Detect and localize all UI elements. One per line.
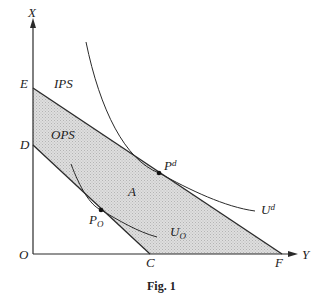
region-label-ops: OPS [51,127,75,142]
label-ud: Ud [261,202,275,217]
label-pd: Pd [163,158,177,173]
label-po: PO [88,212,104,229]
region-label-a: A [127,184,136,199]
point-po [99,208,104,213]
figure-caption: Fig. 1 [147,279,176,293]
point-label-c: C [146,255,155,270]
origin-label: O [19,247,29,262]
arrow-right-icon [288,251,298,257]
diagram: X Y O E D C F IPS OPS A Pd PO Ud UO Fig.… [0,0,318,301]
point-pd [157,171,162,176]
point-label-f: F [274,255,284,270]
point-label-d: D [19,137,30,152]
point-label-e: E [19,76,28,91]
axis-label-x: X [27,5,37,20]
axis-label-y: Y [302,247,311,262]
region-label-ips: IPS [53,76,73,91]
